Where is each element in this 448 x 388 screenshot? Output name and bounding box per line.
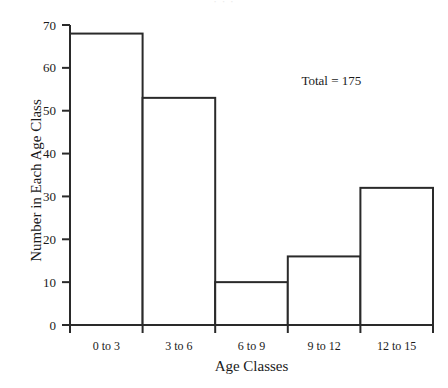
bar-12-to-15 — [360, 188, 433, 325]
x-category-label: 9 to 12 — [307, 339, 340, 353]
y-tick-label-20: 20 — [43, 232, 56, 247]
histogram-chart: · · · Number in Each Age Class Age Class… — [0, 0, 448, 388]
bars-group — [70, 34, 433, 325]
y-tick-label-40: 40 — [43, 146, 56, 161]
bar-9-to-12 — [288, 256, 361, 325]
y-tick-label-60: 60 — [43, 60, 56, 75]
bar-6-to-9 — [215, 282, 288, 325]
x-category-label: 6 to 9 — [238, 339, 265, 353]
y-tick-label-30: 30 — [43, 189, 56, 204]
bar-0-to-3 — [70, 34, 143, 325]
x-category-label: 12 to 15 — [377, 339, 416, 353]
x-tick-group — [70, 325, 433, 333]
annotation-group: Total = 175 — [301, 73, 361, 88]
y-tick-label-0: 0 — [50, 318, 57, 333]
plot-area: 010203040506070 0 to 33 to 66 to 99 to 1… — [0, 0, 448, 388]
y-tick-label-50: 50 — [43, 103, 56, 118]
x-category-label-group: 0 to 33 to 66 to 99 to 1212 to 15 — [93, 339, 417, 353]
y-tick-label-70: 70 — [43, 18, 56, 33]
x-axis-group: 0 to 33 to 66 to 99 to 1212 to 15 — [62, 325, 433, 353]
x-category-label: 0 to 3 — [93, 339, 120, 353]
total-annotation: Total = 175 — [301, 73, 361, 88]
y-tick-group: 010203040506070 — [43, 18, 70, 333]
bar-3-to-6 — [143, 98, 216, 325]
x-category-label: 3 to 6 — [165, 339, 192, 353]
y-axis-group: 010203040506070 — [43, 18, 70, 333]
y-tick-label-10: 10 — [43, 275, 56, 290]
